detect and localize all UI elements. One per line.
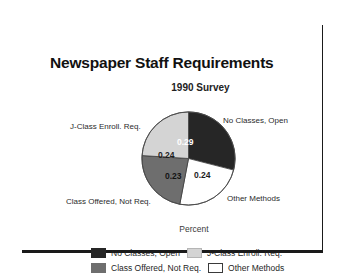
legend-row: No Classes, OpenJ-Class Enroll. Req.	[91, 245, 321, 260]
chart-subtitle: 1990 Survey	[20, 82, 361, 93]
slice-value-other-methods: 0.24	[194, 170, 211, 180]
legend-swatch-icon	[187, 248, 202, 258]
callout-label-class-offered-not-req: Class Offered, Not Req.	[66, 197, 151, 206]
legend-swatch-icon	[208, 263, 223, 273]
legend-item[interactable]: No Classes, Open	[91, 248, 187, 258]
legend-item-label: No Classes, Open	[111, 248, 180, 258]
slice-value-j-class-enroll-req: 0.24	[158, 150, 175, 160]
legend-row: Class Offered, Not Req.Other Methods	[91, 260, 321, 275]
callout-label-no-classes-open: No Classes, Open	[223, 116, 288, 125]
legend-item[interactable]: Class Offered, Not Req.	[91, 263, 208, 273]
chart-figure-panel: Newspaper Staff Requirements 1990 Survey…	[20, 25, 322, 250]
pie-chart	[141, 111, 236, 206]
legend-swatch-icon	[91, 248, 106, 258]
slice-value-class-offered-not-req: 0.23	[165, 171, 182, 181]
legend-item[interactable]: Other Methods	[208, 263, 291, 273]
slice-value-no-classes-open: 0.29	[177, 137, 194, 147]
chart-legend: No Classes, OpenJ-Class Enroll. Req.Clas…	[91, 245, 321, 275]
callout-label-other-methods: Other Methods	[227, 194, 280, 203]
legend-item-label: Class Offered, Not Req.	[111, 263, 201, 273]
legend-item[interactable]: J-Class Enroll. Req.	[187, 248, 289, 258]
axis-caption: Percent	[20, 224, 361, 234]
legend-item-label: J-Class Enroll. Req.	[207, 248, 282, 258]
pie-slice-group	[142, 112, 235, 205]
pie-chart-svg	[141, 111, 236, 206]
callout-label-j-class-enroll-req: J-Class Enroll. Req.	[70, 122, 141, 131]
legend-item-label: Other Methods	[228, 263, 284, 273]
page-title: Newspaper Staff Requirements	[50, 54, 274, 72]
legend-swatch-icon	[91, 263, 106, 273]
